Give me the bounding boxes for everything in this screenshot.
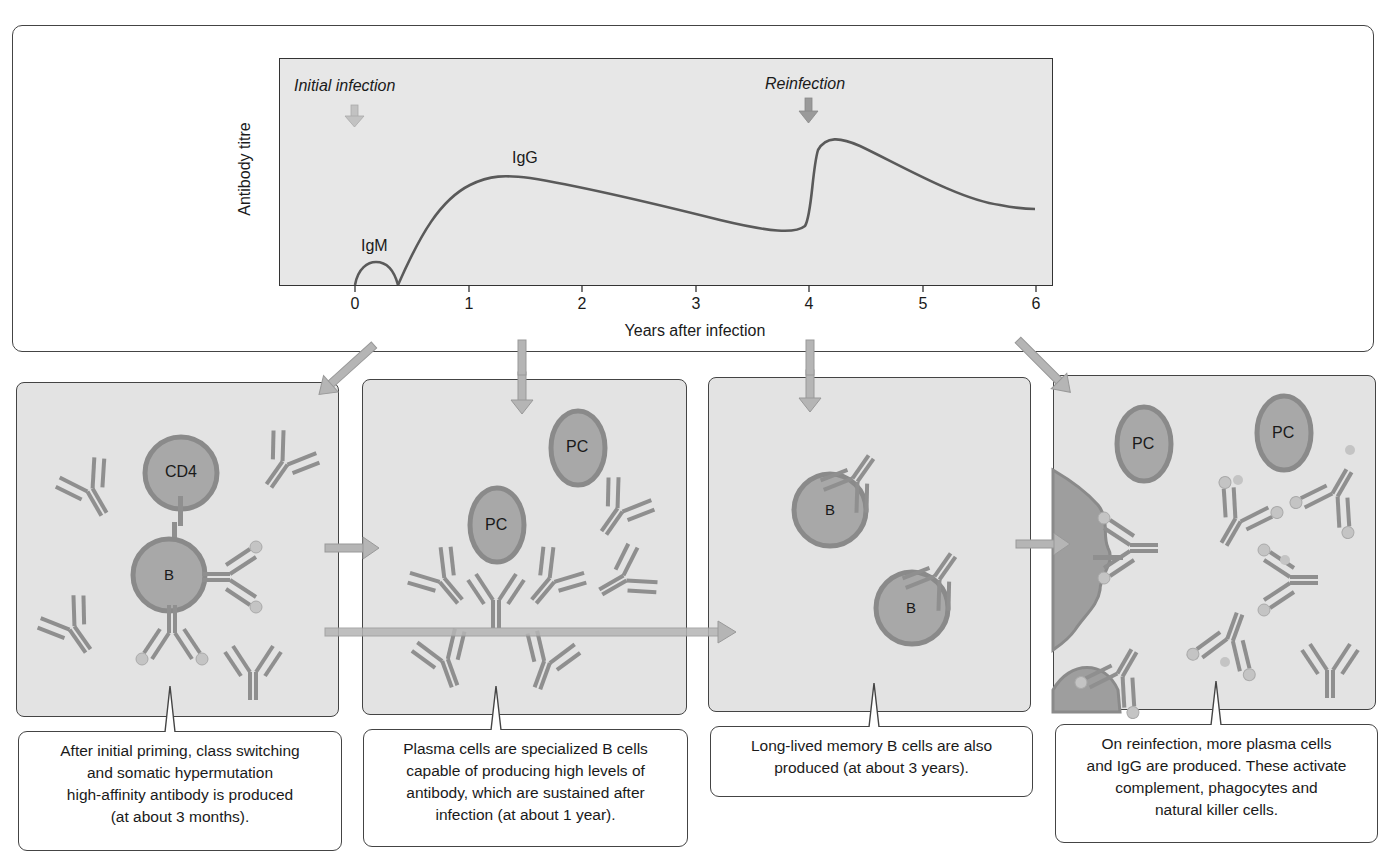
igg-label: IgG xyxy=(512,149,538,167)
x-tick-0: 0 xyxy=(345,295,365,313)
caption-priming: After initial priming, class switching a… xyxy=(18,731,342,851)
panel-reinfection xyxy=(1053,375,1376,710)
plasma-cell-label: PC xyxy=(485,516,507,534)
panel-plasma-cells xyxy=(362,379,687,715)
memory-b-cell-label: B xyxy=(906,599,916,616)
x-tick-2: 2 xyxy=(572,295,592,313)
plasma-cell-label: PC xyxy=(566,438,588,456)
cd4-cell-label: CD4 xyxy=(165,463,197,481)
caption-reinfection: On reinfection, more plasma cells and Ig… xyxy=(1055,724,1378,843)
x-tick-6: 6 xyxy=(1026,295,1046,313)
plasma-cell-label: PC xyxy=(1272,424,1294,442)
x-axis-label: Years after infection xyxy=(580,322,810,340)
reinfection-label: Reinfection xyxy=(765,75,845,93)
x-tick-1: 1 xyxy=(459,295,479,313)
panel-memory-b-cells xyxy=(708,377,1031,712)
initial-infection-label: Initial infection xyxy=(294,77,395,95)
x-tick-4: 4 xyxy=(799,295,819,313)
caption-plasma-cells: Plasma cells are specialized B cells cap… xyxy=(363,729,688,847)
plasma-cell-label: PC xyxy=(1132,435,1154,453)
y-axis-label: Antibody titre xyxy=(236,104,254,234)
memory-b-cell-label: B xyxy=(825,501,835,518)
x-tick-5: 5 xyxy=(913,295,933,313)
b-cell-label: B xyxy=(164,566,174,583)
igm-label: IgM xyxy=(361,237,388,255)
caption-memory-b-cells: Long-lived memory B cells are also produ… xyxy=(710,726,1033,797)
panel-priming xyxy=(16,382,339,717)
x-tick-3: 3 xyxy=(686,295,706,313)
